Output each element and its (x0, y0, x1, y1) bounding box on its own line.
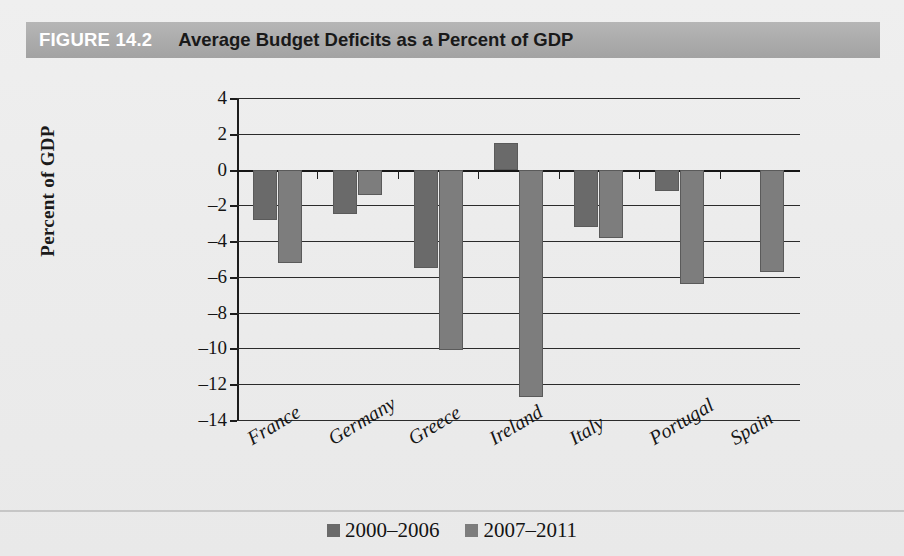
y-axis-tick-label: –4 (208, 230, 227, 252)
bar (414, 170, 438, 268)
bar (278, 170, 302, 263)
y-axis-tick-label: –2 (208, 194, 227, 216)
gridline (237, 98, 800, 99)
y-axis-tick-label: 2 (218, 123, 228, 145)
bar (333, 170, 357, 215)
bar (599, 170, 623, 238)
legend-label: 2007–2011 (483, 518, 577, 543)
bar (253, 170, 277, 220)
figure-number-label: FIGURE 14.2 (39, 29, 152, 51)
bar (760, 170, 784, 272)
category-tick (720, 170, 721, 179)
chart-area: Percent of GDP 420–2–4–6–8–10–12–14 Fran… (0, 62, 904, 510)
y-axis-tick-label: –8 (208, 302, 227, 324)
y-axis-title: Percent of GDP (37, 81, 59, 301)
bar (494, 143, 518, 170)
chart-legend: 2000–20062007–2011 (0, 518, 904, 543)
y-axis-tick (230, 205, 237, 207)
legend-swatch (327, 524, 340, 537)
y-axis-tick-label: –12 (199, 373, 228, 395)
legend-label: 2000–2006 (345, 518, 440, 543)
y-axis-tick (230, 384, 237, 386)
bar (439, 170, 463, 351)
gridline (237, 134, 800, 135)
y-axis-tick (230, 313, 237, 315)
bar (519, 170, 543, 397)
y-axis-tick (230, 277, 237, 279)
y-axis-tick (230, 241, 237, 243)
figure-header-band: FIGURE 14.2 Average Budget Deficits as a… (26, 22, 880, 58)
legend-item: 2000–2006 (327, 518, 440, 543)
category-tick (398, 170, 399, 179)
category-tick (317, 170, 318, 179)
category-tick (639, 170, 640, 179)
legend-item: 2007–2011 (465, 518, 577, 543)
y-axis-tick-label: –6 (208, 266, 227, 288)
category-tick (559, 170, 560, 179)
figure-container: FIGURE 14.2 Average Budget Deficits as a… (0, 0, 904, 556)
y-axis-tick-label: 0 (218, 159, 228, 181)
bar (655, 170, 679, 191)
figure-title: Average Budget Deficits as a Percent of … (178, 29, 573, 51)
legend-swatch (465, 524, 478, 537)
bar (680, 170, 704, 284)
y-axis-tick (230, 134, 237, 136)
category-tick (478, 170, 479, 179)
bar (358, 170, 382, 195)
y-axis-tick (230, 348, 237, 350)
y-axis-tick (230, 420, 237, 422)
x-axis-tick-labels: FranceGermanyGreeceIrelandItalyPortugalS… (237, 430, 800, 510)
y-axis-tick (230, 98, 237, 100)
y-axis-tick-label: –14 (199, 409, 228, 431)
bar (574, 170, 598, 227)
y-axis-tick-label: 4 (218, 87, 228, 109)
y-axis-tick (230, 170, 237, 172)
plot-area: 420–2–4–6–8–10–12–14 (237, 98, 800, 420)
y-axis-tick-label: –10 (199, 337, 228, 359)
bottom-divider (0, 510, 904, 512)
